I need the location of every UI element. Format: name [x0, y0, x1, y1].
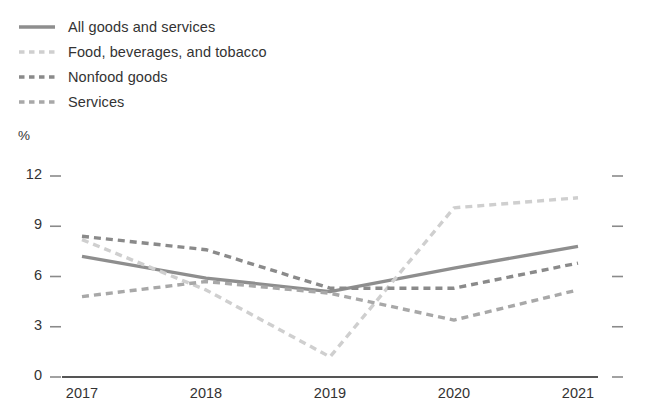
y-axis-tick-label: 12 [8, 166, 42, 182]
inflation-line-chart: All goods and services Food, beverages, … [0, 0, 648, 418]
y-axis-tick-label: 0 [8, 367, 42, 383]
x-axis-tick-label: 2017 [47, 385, 117, 401]
y-axis-tick-label: 9 [8, 216, 42, 232]
x-axis-tick-label: 2020 [419, 385, 489, 401]
series-line-nonfood-goods [82, 236, 578, 288]
plot-area [0, 0, 648, 418]
x-axis-tick-label: 2018 [171, 385, 241, 401]
y-axis-tick-label: 3 [8, 317, 42, 333]
series-line-food-beverages-and-tobacco [82, 198, 578, 357]
y-axis-tick-label: 6 [8, 267, 42, 283]
series-line-all-goods-and-services [82, 246, 578, 291]
y-axis-unit-label: % [18, 128, 30, 143]
x-axis-tick-label: 2021 [543, 385, 613, 401]
plot-svg [0, 0, 648, 418]
x-axis-tick-label: 2019 [295, 385, 365, 401]
